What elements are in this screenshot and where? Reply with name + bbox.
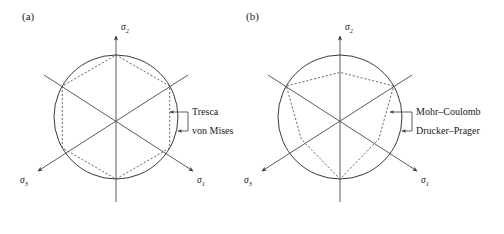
mohr-coulomb-label: Mohr–Coulomb bbox=[416, 106, 480, 117]
sigma-2-label: σ2 bbox=[121, 22, 130, 34]
sigma-3-label: σ3 bbox=[244, 175, 253, 187]
panel-a-label: (a) bbox=[22, 10, 35, 23]
sigma-2-label: σ2 bbox=[345, 22, 354, 34]
panel-a: (a) σ2 σ1 σ3 bbox=[20, 10, 234, 202]
von-mises-label: von Mises bbox=[192, 125, 234, 136]
figure-root: (a) σ2 σ1 σ3 bbox=[0, 0, 504, 234]
sigma-1-axis bbox=[268, 75, 417, 171]
panel-b-axes bbox=[262, 36, 417, 202]
panel-b-axis-labels: σ2 σ1 σ3 bbox=[244, 22, 429, 187]
sigma-1-label: σ1 bbox=[421, 175, 429, 187]
panel-b-label: (b) bbox=[246, 10, 259, 23]
sigma-3-label: σ3 bbox=[20, 175, 29, 187]
sigma-1-label: σ1 bbox=[197, 175, 205, 187]
panel-a-axes bbox=[38, 36, 193, 202]
panel-b: (b) σ2 σ1 σ3 Mohr–Coulomb Drucker–Prag bbox=[244, 10, 481, 202]
yield-criteria-figure: (a) σ2 σ1 σ3 bbox=[0, 0, 504, 234]
sigma-1-axis bbox=[44, 75, 193, 171]
tresca-label: Tresca bbox=[192, 106, 219, 117]
drucker-prager-label: Drucker–Prager bbox=[416, 125, 481, 136]
panel-b-annotations: Mohr–Coulomb Drucker–Prager bbox=[390, 106, 481, 136]
panel-a-annotations: Tresca von Mises bbox=[170, 106, 234, 136]
panel-a-axis-labels: σ2 σ1 σ3 bbox=[20, 22, 205, 187]
